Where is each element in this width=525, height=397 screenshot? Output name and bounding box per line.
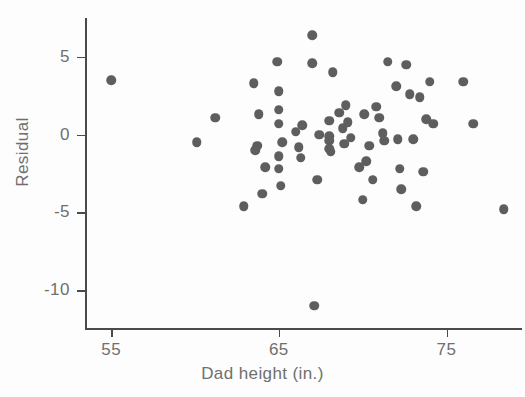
data-point — [365, 141, 375, 151]
data-point — [328, 68, 338, 78]
y-tick-label: 0 — [60, 125, 70, 145]
data-point — [402, 60, 412, 70]
scatter-plot-figure: 50-5-10 556575 Dad height (in.) Residual — [0, 0, 525, 397]
y-tick-label: -10 — [44, 280, 70, 300]
data-point — [459, 77, 469, 87]
x-axis-title: Dad height (in.) — [0, 364, 525, 384]
x-tick-mark — [279, 329, 281, 337]
y-axis-title: Residual — [13, 112, 33, 192]
data-point — [298, 121, 308, 131]
data-point — [397, 184, 407, 194]
data-point — [341, 100, 351, 110]
data-point — [252, 141, 262, 151]
data-point — [391, 82, 401, 92]
data-point — [361, 156, 371, 166]
plot-area — [86, 18, 522, 329]
data-point — [274, 164, 284, 174]
data-point — [274, 105, 284, 115]
data-point — [395, 164, 405, 174]
data-point — [425, 77, 435, 87]
data-point — [277, 138, 287, 148]
data-point — [428, 119, 438, 129]
data-point — [469, 119, 479, 129]
data-point — [309, 301, 319, 311]
data-point — [499, 205, 509, 215]
data-point — [375, 113, 385, 123]
data-point — [415, 93, 425, 103]
data-point — [371, 102, 381, 112]
y-tick-label: -5 — [54, 202, 70, 222]
data-point — [412, 201, 422, 211]
x-tick-mark — [447, 329, 449, 337]
data-point — [294, 142, 304, 152]
data-point — [313, 175, 323, 185]
data-point — [343, 117, 353, 127]
data-point — [192, 138, 202, 148]
data-point — [418, 167, 428, 177]
data-point — [326, 147, 336, 157]
x-tick-label: 65 — [269, 340, 289, 360]
x-tick-mark — [111, 329, 113, 337]
data-point — [368, 175, 378, 185]
data-point — [276, 181, 286, 191]
data-point — [239, 201, 249, 211]
data-point — [296, 153, 306, 163]
data-point — [408, 135, 418, 145]
y-tick-mark — [77, 290, 85, 292]
data-point — [358, 195, 368, 205]
data-point — [324, 116, 334, 126]
y-tick-mark — [77, 57, 85, 59]
y-tick-label: 5 — [60, 47, 70, 67]
x-tick-label: 55 — [101, 340, 121, 360]
data-point — [393, 135, 403, 145]
data-point — [261, 163, 271, 173]
data-point — [249, 79, 259, 89]
data-point — [346, 133, 356, 143]
data-point — [380, 136, 390, 146]
data-point — [360, 110, 370, 120]
data-point — [274, 86, 284, 96]
data-point — [106, 75, 116, 85]
data-point — [272, 57, 282, 67]
data-point — [314, 130, 324, 140]
data-point — [405, 89, 415, 99]
y-tick-mark — [77, 135, 85, 137]
data-point — [210, 113, 220, 123]
data-point — [274, 119, 284, 129]
data-point — [308, 30, 318, 40]
x-tick-label: 75 — [437, 340, 457, 360]
y-tick-mark — [77, 212, 85, 214]
data-point — [383, 57, 393, 67]
data-point — [254, 110, 264, 120]
data-point — [308, 58, 318, 68]
data-point — [257, 189, 267, 199]
data-point — [274, 152, 284, 162]
